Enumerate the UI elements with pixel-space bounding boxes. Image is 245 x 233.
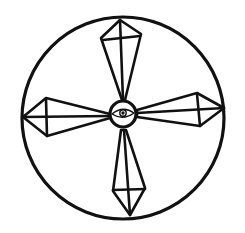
cross-eye-symbol: [0, 0, 245, 233]
symbol-drawing: [0, 0, 245, 233]
arm-left: [23, 98, 110, 136]
arm-bottom: [113, 130, 145, 215]
arm-top: [101, 20, 141, 100]
arm-right: [137, 93, 224, 126]
